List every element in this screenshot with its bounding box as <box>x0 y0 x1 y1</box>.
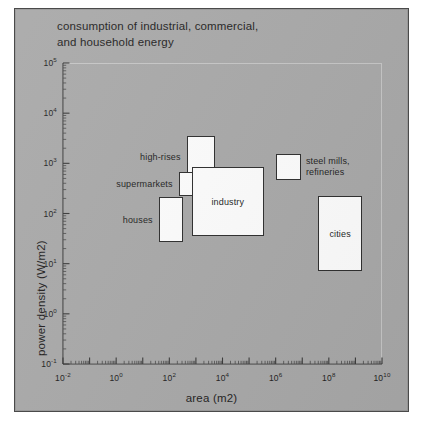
data-box-label-supermarkets: supermarkets <box>116 179 172 190</box>
data-box-label-high-rises: high-rises <box>140 151 181 162</box>
y-tick-label: 103 <box>43 158 57 168</box>
x-tick-label: 108 <box>322 373 336 383</box>
y-tick-label: 100 <box>43 309 57 319</box>
y-tick-label: 101 <box>43 259 57 269</box>
y-tick-label: 10-1 <box>41 359 57 369</box>
x-tick-label: 102 <box>163 373 177 383</box>
x-tick-label: 100 <box>109 373 123 383</box>
x-tick-label: 10-2 <box>55 373 71 383</box>
y-tick-label: 104 <box>43 108 57 118</box>
x-tick-label: 104 <box>216 373 230 383</box>
y-tick-label: 105 <box>43 58 57 68</box>
data-box-label-houses: houses <box>123 214 153 225</box>
x-tick-label: 106 <box>269 373 283 383</box>
x-tick-label: 1010 <box>373 373 390 383</box>
y-tick-label: 102 <box>43 209 57 219</box>
data-box-steel-mills-refineries <box>276 154 301 180</box>
data-box-label-steel-mills-refineries: steel mills, refineries <box>306 156 350 178</box>
data-box-houses <box>159 197 183 242</box>
data-box-label-industry: industry <box>211 196 244 207</box>
y-axis-title: power density (W/m2) <box>35 240 47 356</box>
data-box-label-cities: cities <box>329 228 350 239</box>
x-axis-title: area (m2) <box>15 392 408 404</box>
figure-panel: consumption of industrial, commercial, a… <box>14 8 409 412</box>
